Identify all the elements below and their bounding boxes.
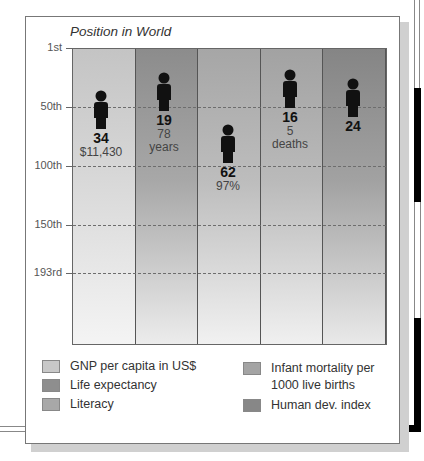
- legend-item-life-expectancy: Life expectancy: [42, 378, 157, 393]
- rank-value: 34: [71, 131, 131, 146]
- page-rail-outline-top: [414, 0, 420, 88]
- page-rail-black-bar: [414, 318, 421, 432]
- marker-literacy: 62 97%: [198, 124, 258, 193]
- person-icon: [218, 124, 238, 164]
- chart-title: Position in World: [70, 24, 171, 39]
- page-rail-outline-middle: [414, 202, 421, 318]
- page-rail-hook: [407, 425, 421, 432]
- marker-human-dev-index: 24: [323, 78, 383, 134]
- marker-infant-mortality: 16 5 deaths: [260, 69, 320, 151]
- y-tick-label-100th: 100th: [22, 159, 62, 171]
- legend-label: Infant mortality per: [271, 361, 375, 376]
- metric-value: 97%: [198, 180, 258, 193]
- gridline-193rd: [73, 273, 386, 274]
- legend-swatch: [42, 379, 60, 392]
- legend-item-infant-mortality: Infant mortality per 1000 live births: [243, 361, 375, 393]
- legend-label: 1000 live births: [271, 378, 375, 393]
- legend-item-gnp: GNP per capita in US$: [42, 359, 196, 374]
- person-icon: [280, 69, 300, 109]
- page-rule-double-line: [0, 426, 26, 432]
- y-tick-label-193rd: 193rd: [22, 266, 62, 278]
- legend-label: GNP per capita in US$: [70, 359, 196, 374]
- column-literacy: [198, 49, 261, 344]
- person-icon: [154, 72, 174, 112]
- rank-value: 24: [323, 119, 383, 134]
- rank-value: 19: [134, 113, 194, 128]
- legend-label: Life expectancy: [70, 378, 157, 393]
- legend-label: Human dev. index: [271, 398, 371, 413]
- metric-unit: deaths: [260, 138, 320, 151]
- legend-swatch: [243, 362, 261, 375]
- gridline-150th: [73, 225, 386, 226]
- marker-gnp: 34 $11,430: [71, 90, 131, 159]
- legend-swatch: [243, 399, 261, 412]
- rank-value: 62: [198, 165, 258, 180]
- person-icon: [343, 78, 363, 118]
- legend-label: Literacy: [70, 397, 114, 412]
- legend-item-literacy: Literacy: [42, 397, 114, 412]
- page-rail-black-bar: [414, 88, 421, 202]
- legend-item-human-dev-index: Human dev. index: [243, 398, 371, 413]
- legend-swatch: [42, 360, 60, 373]
- metric-value: $11,430: [71, 146, 131, 159]
- person-icon: [91, 90, 111, 130]
- metric-unit: years: [134, 141, 194, 154]
- y-tick-label-1st: 1st: [22, 41, 62, 53]
- marker-life-expectancy: 19 78 years: [134, 72, 194, 154]
- rank-value: 16: [260, 110, 320, 125]
- legend-swatch: [42, 398, 60, 411]
- y-tick-label-150th: 150th: [22, 218, 62, 230]
- y-tick-label-50th: 50th: [22, 100, 62, 112]
